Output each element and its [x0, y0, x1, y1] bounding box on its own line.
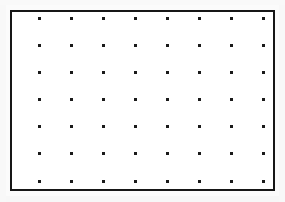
grid-dot: [198, 44, 201, 47]
grid-dot: [134, 71, 137, 74]
grid-dot: [134, 152, 137, 155]
grid-dot: [166, 152, 169, 155]
grid-dot: [70, 17, 73, 20]
grid-dot: [38, 17, 41, 20]
grid-dot: [230, 152, 233, 155]
grid-dot: [198, 17, 201, 20]
grid-dot: [134, 17, 137, 20]
grid-dot: [198, 98, 201, 101]
grid-dot: [166, 98, 169, 101]
grid-dot: [230, 44, 233, 47]
grid-dot: [230, 17, 233, 20]
grid-dot: [102, 71, 105, 74]
grid-dot: [262, 180, 265, 183]
grid-dot: [38, 125, 41, 128]
grid-dot: [198, 71, 201, 74]
grid-dot: [262, 44, 265, 47]
grid-dot: [134, 44, 137, 47]
grid-dot: [70, 44, 73, 47]
grid-dot: [102, 125, 105, 128]
grid-dot: [230, 125, 233, 128]
grid-dot: [166, 125, 169, 128]
grid-dot: [102, 180, 105, 183]
grid-dot: [166, 44, 169, 47]
grid-dot: [38, 180, 41, 183]
grid-dot: [198, 152, 201, 155]
grid-dot: [262, 125, 265, 128]
grid-dot: [38, 71, 41, 74]
dot-grid-layer: [12, 12, 273, 189]
grid-dot: [198, 125, 201, 128]
grid-dot: [230, 180, 233, 183]
grid-dot: [134, 125, 137, 128]
figure-canvas: [0, 0, 285, 202]
grid-dot: [102, 98, 105, 101]
grid-dot: [70, 180, 73, 183]
grid-dot: [166, 180, 169, 183]
grid-dot: [230, 71, 233, 74]
grid-dot: [38, 98, 41, 101]
grid-dot: [70, 71, 73, 74]
grid-dot: [134, 98, 137, 101]
grid-dot: [102, 44, 105, 47]
grid-dot: [166, 17, 169, 20]
grid-frame-border: [10, 10, 275, 191]
grid-dot: [38, 152, 41, 155]
grid-dot: [262, 98, 265, 101]
grid-dot: [166, 71, 169, 74]
grid-dot: [102, 152, 105, 155]
grid-dot: [102, 17, 105, 20]
grid-dot: [262, 152, 265, 155]
grid-dot: [230, 98, 233, 101]
grid-dot: [198, 180, 201, 183]
grid-dot: [70, 125, 73, 128]
grid-dot: [134, 180, 137, 183]
grid-dot: [262, 71, 265, 74]
grid-dot: [38, 44, 41, 47]
grid-dot: [70, 98, 73, 101]
grid-dot: [262, 17, 265, 20]
grid-dot: [70, 152, 73, 155]
